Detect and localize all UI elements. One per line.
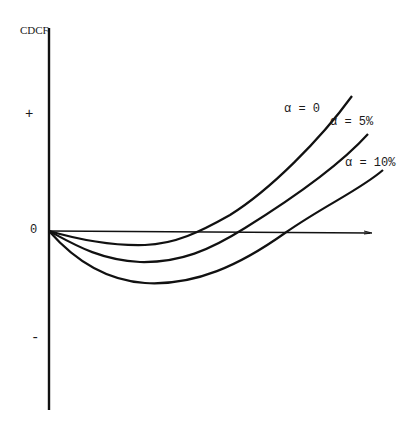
x-axis [49,231,370,233]
plus-tick-label: + [25,107,33,121]
minus-tick-label: - [31,331,39,345]
label-alpha-10: α = 10% [345,157,395,169]
label-alpha-5: α = 5% [330,116,373,128]
label-alpha-0: α = 0 [284,103,320,115]
chart-canvas [0,0,402,437]
curve-alpha-10 [49,170,383,283]
zero-tick-label: 0 [30,224,37,236]
curve-alpha-0 [49,96,352,245]
y-axis-label: CDCF [20,25,49,36]
